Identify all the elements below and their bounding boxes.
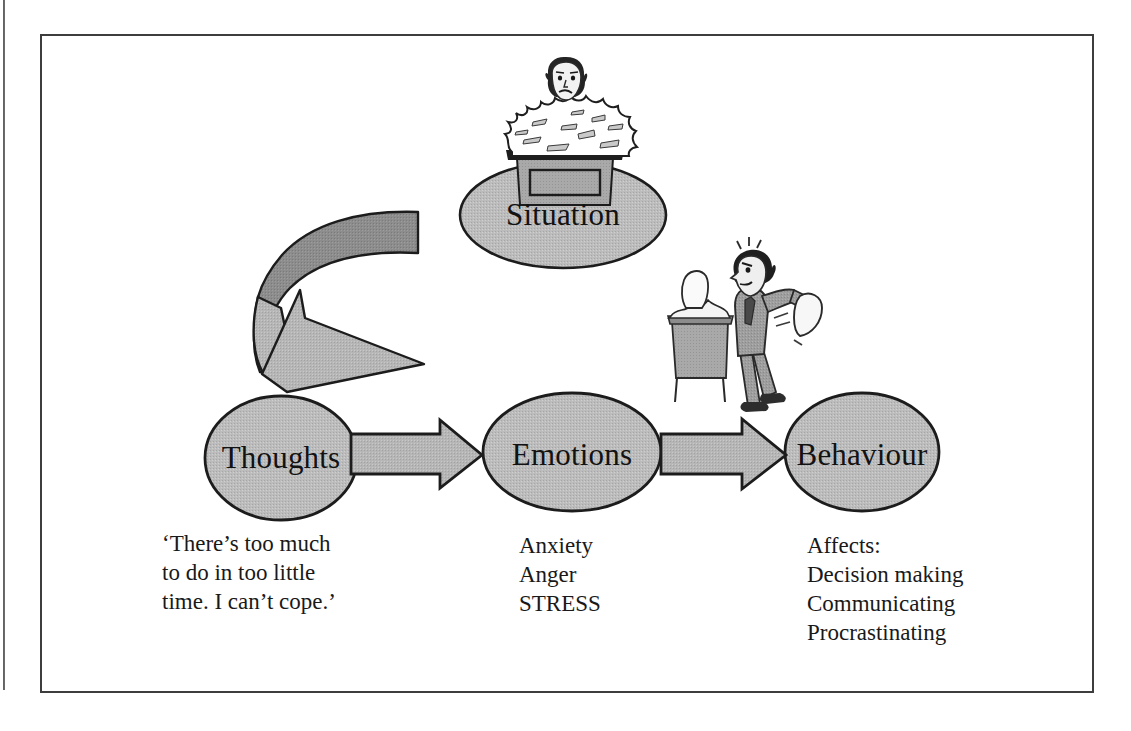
diagram-page: Situation Thoughts Emotions Behaviour ‘T… xyxy=(0,0,1131,731)
node-label-emotions: Emotions xyxy=(483,437,661,473)
node-label-situation: Situation xyxy=(460,197,666,233)
node-label-thoughts: Thoughts xyxy=(205,440,357,476)
page-edge-line xyxy=(3,0,5,690)
caption-behaviour: Affects: Decision making Communicating P… xyxy=(807,531,1077,647)
caption-emotions: Anxiety Anger STRESS xyxy=(519,531,739,618)
node-label-behaviour: Behaviour xyxy=(779,437,945,473)
caption-thoughts: ‘There’s too much to do in too little ti… xyxy=(162,529,452,616)
